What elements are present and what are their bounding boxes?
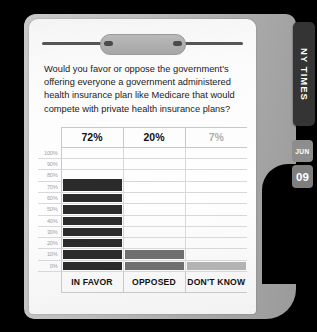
ytick-30: 30% — [38, 226, 61, 237]
bar-segment-in-favor — [63, 250, 122, 258]
ytick-0: 0% — [38, 260, 61, 271]
tab-day-label: 09 — [296, 171, 309, 183]
cell-in-favor-60 — [61, 193, 123, 204]
divider-knob-left-icon — [104, 41, 113, 46]
tab-source-ny-times[interactable]: NY TIMES — [293, 22, 315, 126]
percent-dont-know: 7% — [185, 127, 247, 147]
cell-opposed-50 — [123, 204, 185, 215]
folder-corner-notch — [262, 164, 296, 284]
cell-dont-know-90 — [185, 159, 247, 170]
cell-in-favor-40 — [61, 215, 123, 226]
grid-row-90: 90% — [38, 159, 247, 170]
cell-opposed-20 — [123, 238, 185, 249]
cell-opposed-70 — [123, 181, 185, 192]
bar-segment-opposed — [125, 250, 184, 258]
grid-row-0: 0% — [38, 260, 247, 271]
cell-in-favor-90 — [61, 159, 123, 170]
grid-row-50: 50% — [38, 204, 247, 215]
grid-row-20: 20% — [38, 238, 247, 249]
percent-opposed: 20% — [123, 127, 185, 147]
header-axis-spacer — [38, 127, 61, 147]
bar-segment-in-favor — [63, 228, 122, 236]
grid-row-40: 40% — [38, 215, 247, 226]
poll-chart: 72% 20% 7% 100% 90% — [38, 127, 247, 293]
cell-opposed-100 — [123, 147, 185, 158]
cell-dont-know-70 — [185, 181, 247, 192]
divider-knob-right-icon — [173, 41, 182, 46]
ytick-70: 70% — [38, 181, 61, 192]
bar-segment-opposed — [125, 262, 184, 270]
cell-dont-know-10 — [185, 249, 247, 260]
bar-segment-in-favor — [63, 205, 122, 213]
cell-in-favor-20 — [61, 238, 123, 249]
ytick-90: 90% — [38, 159, 61, 170]
cell-in-favor-70 — [61, 181, 123, 192]
bar-segment-dont-know — [187, 262, 247, 270]
grid-row-100: 100% — [38, 147, 247, 158]
bar-segment-in-favor — [63, 262, 122, 270]
cell-opposed-80 — [123, 170, 185, 181]
tab-day-09[interactable]: 09 — [292, 165, 313, 188]
card-divider-handle[interactable] — [38, 32, 247, 54]
ytick-10: 10% — [38, 249, 61, 260]
screenshot-root: Would you favor or oppose the government… — [0, 0, 317, 332]
bar-segment-in-favor — [63, 239, 122, 247]
category-dont-know: DON'T KNOW — [185, 272, 247, 293]
grid-row-10: 10% — [38, 249, 247, 260]
ytick-60: 60% — [38, 193, 61, 204]
cell-opposed-90 — [123, 159, 185, 170]
cell-dont-know-100 — [185, 147, 247, 158]
grid-row-60: 60% — [38, 193, 247, 204]
ytick-80: 80% — [38, 170, 61, 181]
cell-in-favor-30 — [61, 226, 123, 237]
poll-table: 72% 20% 7% 100% 90% — [38, 127, 247, 293]
cell-in-favor-50 — [61, 204, 123, 215]
cell-in-favor-10 — [61, 249, 123, 260]
cell-dont-know-50 — [185, 204, 247, 215]
ytick-20: 20% — [38, 238, 61, 249]
bar-segment-in-favor — [63, 194, 122, 202]
tab-source-label: NY TIMES — [299, 48, 310, 101]
cell-opposed-10 — [123, 249, 185, 260]
cell-dont-know-40 — [185, 215, 247, 226]
cell-opposed-40 — [123, 215, 185, 226]
bar-segment-in-favor — [63, 179, 122, 191]
cell-dont-know-30 — [185, 226, 247, 237]
cell-opposed-30 — [123, 226, 185, 237]
cell-dont-know-80 — [185, 170, 247, 181]
ytick-50: 50% — [38, 204, 61, 215]
poll-question: Would you favor or oppose the government… — [44, 63, 243, 116]
cell-dont-know-20 — [185, 238, 247, 249]
cell-in-favor-0 — [61, 260, 123, 271]
category-footer-row: IN FAVOR OPPOSED DON'T KNOW — [38, 272, 247, 293]
ytick-40: 40% — [38, 215, 61, 226]
cell-opposed-60 — [123, 193, 185, 204]
category-opposed: OPPOSED — [123, 272, 185, 293]
footer-axis-spacer — [38, 272, 61, 293]
grid-row-70: 70% — [38, 181, 247, 192]
poll-card: Would you favor or oppose the government… — [29, 19, 256, 314]
bar-segment-in-favor — [63, 217, 122, 225]
cell-dont-know-60 — [185, 193, 247, 204]
percent-header-row: 72% 20% 7% — [38, 127, 247, 147]
cell-in-favor-100 — [61, 147, 123, 158]
tab-month-label: JUN — [295, 148, 310, 155]
grid-row-30: 30% — [38, 226, 247, 237]
category-in-favor: IN FAVOR — [61, 272, 123, 293]
cell-opposed-0 — [123, 260, 185, 271]
percent-in-favor: 72% — [61, 127, 123, 147]
ytick-100: 100% — [38, 147, 61, 158]
tab-month-jun[interactable]: JUN — [292, 140, 313, 162]
cell-dont-know-0 — [185, 260, 247, 271]
